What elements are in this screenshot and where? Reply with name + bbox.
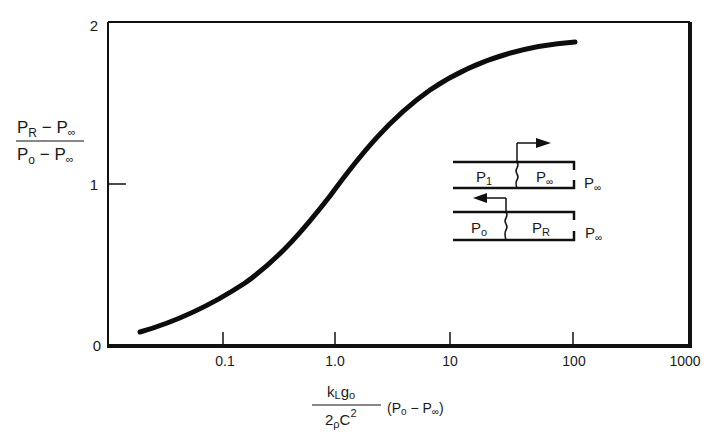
x-tick-label-1000: 1000 xyxy=(669,353,700,369)
y-tick-label-2: 2 xyxy=(90,17,98,34)
svg-text:P∞: P∞ xyxy=(536,168,553,187)
arrow-right-icon xyxy=(536,138,551,148)
svg-text:kLgo: kLgo xyxy=(327,383,355,401)
inset-diagram: P1 P∞ P∞ Po PR P∞ xyxy=(453,138,602,243)
x-tick-label-1.0: 1.0 xyxy=(325,353,345,369)
y-axis-label: PR − P∞ Po − P∞ xyxy=(16,118,84,167)
y-tick-label-1: 1 xyxy=(90,176,98,193)
svg-text:P1: P1 xyxy=(476,168,492,187)
arrow-left-icon xyxy=(473,193,487,203)
svg-text:PR − P∞: PR − P∞ xyxy=(17,118,76,140)
svg-text:2ρC2: 2ρC2 xyxy=(325,407,357,430)
x-axis-label: kLgo 2ρC2 (Po − P∞) xyxy=(312,383,444,430)
x-axis-ticks xyxy=(223,332,573,346)
svg-text:Po: Po xyxy=(471,219,487,238)
lower-tube: Po PR P∞ xyxy=(453,193,602,243)
plot-frame xyxy=(107,22,692,346)
svg-text:PR: PR xyxy=(532,219,550,238)
x-axis-tick-labels: 0.1 1.0 10 100 1000 xyxy=(215,353,701,369)
svg-text:Po − P∞: Po − P∞ xyxy=(17,145,74,167)
y-axis-tick-labels: 2 1 0 xyxy=(90,17,101,354)
x-tick-label-100: 100 xyxy=(562,353,586,369)
svg-text:P∞: P∞ xyxy=(584,174,601,193)
x-tick-label-0.1: 0.1 xyxy=(215,353,235,369)
svg-text:(Po − P∞): (Po − P∞) xyxy=(387,400,444,417)
svg-text:P∞: P∞ xyxy=(585,224,602,243)
chart: 2 1 0 0.1 1.0 10 100 1000 PR − P∞ Po − P… xyxy=(0,0,712,439)
y-tick-label-0: 0 xyxy=(93,337,101,354)
x-tick-label-10: 10 xyxy=(442,353,458,369)
upper-tube: P1 P∞ P∞ xyxy=(453,138,601,193)
